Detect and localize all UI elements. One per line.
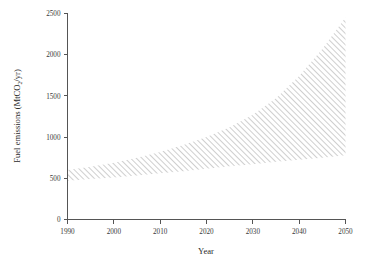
y-axis-title-tail: /yr) (12, 69, 22, 82)
x-tick-label: 2050 (338, 228, 353, 236)
y-tick-label: 2500 (46, 10, 61, 18)
x-axis-title: Year (198, 246, 214, 256)
y-tick-label: 2000 (46, 51, 61, 59)
y-tick-label: 500 (50, 175, 61, 183)
y-tick-label: 1500 (46, 93, 61, 101)
x-tick-label: 2020 (199, 228, 214, 236)
chart-figure: 05001000150020002500 1990200020102020203… (0, 0, 366, 265)
uncertainty-band (68, 18, 346, 181)
emissions-band-chart: 05001000150020002500 1990200020102020203… (0, 0, 366, 265)
y-axis-title: Fuel emissions (MtCO2/yr) (12, 69, 23, 163)
x-axis-ticks: 1990200020102020203020402050 (60, 220, 353, 236)
y-tick-label: 1000 (46, 134, 61, 142)
y-axis-title-main: Fuel emissions (MtCO (12, 84, 22, 162)
y-axis-ticks: 05001000150020002500 (46, 10, 67, 224)
x-tick-label: 2040 (292, 228, 307, 236)
y-tick-label: 0 (57, 216, 61, 224)
x-tick-label: 2010 (153, 228, 168, 236)
x-tick-label: 2030 (246, 228, 261, 236)
x-tick-label: 1990 (60, 228, 75, 236)
x-tick-label: 2000 (107, 228, 122, 236)
